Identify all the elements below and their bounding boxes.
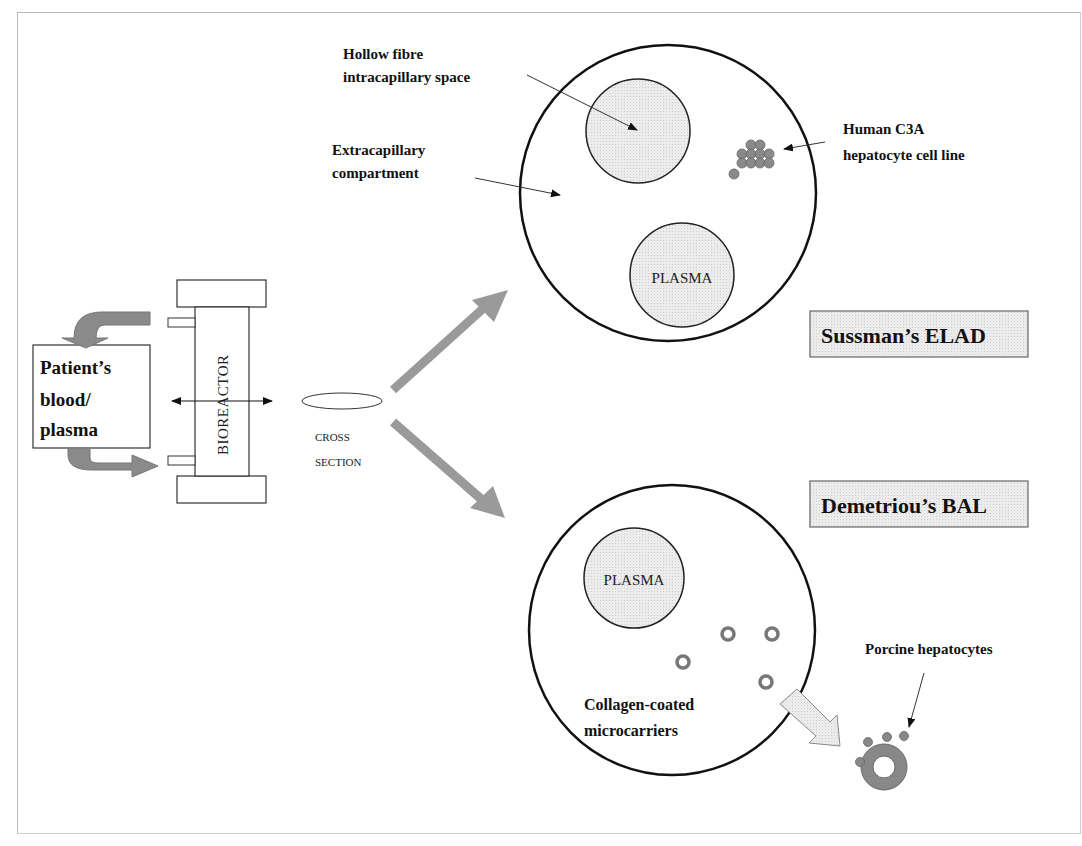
extracapillary-label-line-2: compartment (332, 165, 419, 181)
patient-label-line-3: plasma (40, 419, 99, 440)
bioreactor: BIOREACTOR (168, 280, 266, 503)
c3a-label-line-2: hepatocyte cell line (843, 147, 965, 163)
microcarrier-with-hepatocytes (856, 732, 909, 791)
inflow-curved-arrow-icon (62, 312, 150, 348)
hollow-fibre-label-line-2: intracapillary space (343, 69, 470, 85)
zoom-block-arrow-icon (780, 689, 840, 746)
porcine-hepatocytes-label: Porcine hepatocytes (865, 641, 993, 657)
porcine-pointer-icon (909, 673, 924, 727)
cross-section-ellipse (302, 393, 382, 409)
elad-plasma-label: PLASMA (652, 270, 713, 286)
patient-label-line-2: blood/ (40, 389, 91, 410)
patient-label-line-1: Patient’s (40, 357, 111, 378)
arrow-to-bal-icon (393, 422, 505, 518)
c3a-label-line-1: Human C3A (843, 121, 924, 137)
outflow-curved-arrow-icon (68, 448, 158, 477)
bal-plasma-label: PLASMA (604, 572, 665, 588)
extracapillary-label-line-1: Extracapillary (332, 142, 426, 158)
patient-box: Patient’s blood/ plasma (33, 345, 150, 448)
elad-title-box: Sussman’s ELAD (810, 311, 1028, 357)
hollow-fibre-circle (586, 79, 690, 183)
microcarriers-label-line-1: Collagen-coated (584, 696, 694, 714)
bioartificial-liver-diagram: Patient’s blood/ plasma BIOREACTOR CROSS… (0, 0, 1082, 846)
cross-section-label-line-1: CROSS (315, 431, 350, 443)
elad-cross-section: PLASMA (520, 45, 816, 341)
arrow-to-elad-icon (393, 290, 508, 390)
hollow-fibre-label-line-1: Hollow fibre (343, 46, 423, 62)
microcarriers-label-line-2: microcarriers (584, 722, 678, 739)
bal-title-box: Demetriou’s BAL (810, 481, 1028, 527)
bal-title: Demetriou’s BAL (821, 493, 987, 518)
cross-section-label-line-2: SECTION (315, 456, 362, 468)
bioreactor-label: BIOREACTOR (215, 354, 231, 455)
elad-title: Sussman’s ELAD (821, 323, 986, 348)
